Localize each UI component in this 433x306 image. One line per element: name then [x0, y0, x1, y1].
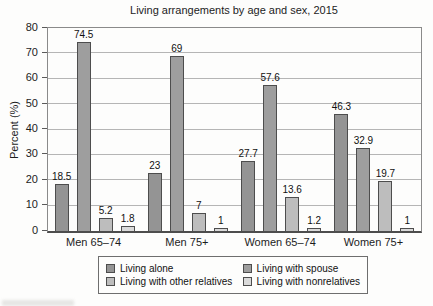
legend-swatch	[243, 264, 252, 273]
bar: 7	[192, 213, 206, 231]
y-tick-label: 70	[26, 46, 38, 59]
bar: 13.6	[285, 197, 299, 232]
y-tick-label: 20	[26, 173, 38, 186]
x-axis-label: Men 65–74	[47, 236, 140, 248]
bar-value-label: 69	[171, 43, 182, 55]
bar: 5.2	[99, 218, 113, 231]
bar: 74.5	[77, 42, 91, 231]
bar-value-label: 1	[218, 215, 224, 227]
bar: 1	[214, 228, 228, 231]
legend-swatch	[106, 277, 115, 286]
y-tick-label: 80	[26, 21, 38, 34]
y-tick-label: 60	[26, 71, 38, 84]
bar: 23	[148, 173, 162, 231]
bar-groups: 18.574.55.21.823697127.757.613.61.246.33…	[48, 28, 421, 231]
legend-label: Living with other relatives	[120, 276, 232, 287]
bar-value-label: 1	[405, 215, 411, 227]
bar: 19.7	[378, 181, 392, 231]
legend-swatch	[106, 264, 115, 273]
legend-item: Living with spouse	[243, 263, 360, 274]
legend-item: Living with nonrelatives	[243, 276, 360, 287]
x-axis-label: Women 65–74	[234, 236, 327, 248]
legend-label: Living with nonrelatives	[257, 276, 360, 287]
bar-value-label: 19.7	[376, 168, 395, 180]
bar: 1	[400, 228, 414, 231]
bar-value-label: 32.9	[354, 135, 373, 147]
bar: 69	[170, 56, 184, 231]
bar-value-label: 57.6	[260, 72, 279, 84]
cropped-text-fragment	[2, 300, 74, 306]
bar: 57.6	[263, 85, 277, 231]
x-axis-label: Women 75+	[327, 236, 420, 248]
y-tick-label: 40	[26, 122, 38, 135]
bar-value-label: 13.6	[282, 184, 301, 196]
bar-group: 236971	[141, 28, 234, 231]
legend: Living aloneLiving with spouseLiving wit…	[98, 256, 368, 294]
chart-title: Living arrangements by age and sex, 2015	[47, 4, 421, 16]
plot-area: 18.574.55.21.823697127.757.613.61.246.33…	[47, 27, 422, 233]
living-arrangements-chart: Living arrangements by age and sex, 2015…	[0, 0, 433, 306]
legend-label: Living with spouse	[257, 263, 339, 274]
legend-label: Living alone	[120, 263, 173, 274]
bar-value-label: 27.7	[238, 148, 257, 160]
legend-item: Living alone	[106, 263, 235, 274]
bar-value-label: 18.5	[52, 171, 71, 183]
legend-item: Living with other relatives	[106, 276, 235, 287]
bar-value-label: 46.3	[332, 101, 351, 113]
y-tick-label: 0	[32, 224, 38, 237]
bar: 1.2	[307, 228, 321, 231]
bar-value-label: 1.2	[307, 215, 321, 227]
y-tick-label: 10	[26, 198, 38, 211]
bar: 32.9	[356, 148, 370, 231]
y-axis: 01020304050607080	[0, 27, 47, 230]
bar-group: 46.332.919.71	[328, 28, 421, 231]
bar-value-label: 23	[149, 160, 160, 172]
bar-value-label: 1.8	[121, 213, 135, 225]
bar: 18.5	[55, 184, 69, 231]
bar-value-label: 5.2	[99, 205, 113, 217]
bar-group: 27.757.613.61.2	[235, 28, 328, 231]
bar: 46.3	[334, 114, 348, 231]
bar-value-label: 74.5	[74, 29, 93, 41]
x-axis-label: Men 75+	[140, 236, 233, 248]
bar: 27.7	[241, 161, 255, 231]
x-axis: Men 65–74Men 75+Women 65–74Women 75+	[47, 236, 420, 248]
y-tick-label: 30	[26, 147, 38, 160]
y-tick-label: 50	[26, 97, 38, 110]
bar: 1.8	[121, 226, 135, 231]
bar-group: 18.574.55.21.8	[48, 28, 141, 231]
legend-swatch	[243, 277, 252, 286]
bar-value-label: 7	[196, 200, 202, 212]
